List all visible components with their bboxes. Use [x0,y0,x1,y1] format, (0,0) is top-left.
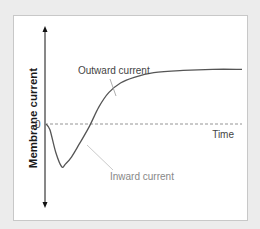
y-axis-arrow-up-icon [43,26,48,32]
zero-tick-label: 0 [35,119,41,130]
outward-current-label: Outward current [78,65,150,76]
inward-leader-line [87,145,113,170]
inward-current-label: Inward current [110,171,174,182]
x-axis-label: Time [212,129,234,140]
series-line [46,69,242,167]
y-axis-arrow-down-icon [43,202,48,208]
membrane-current-chart: Membrane current 0 Time Outward current … [0,0,260,229]
y-axis-label: Membrane current [27,68,39,169]
